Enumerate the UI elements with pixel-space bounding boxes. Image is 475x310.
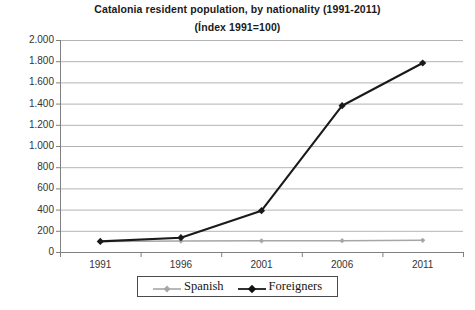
series-line-foreigners (100, 63, 422, 241)
y-axis-label: 1.200 (8, 120, 54, 130)
x-axis-label: 1991 (70, 260, 130, 270)
y-axis-label: 800 (8, 162, 54, 172)
y-axis-label: 600 (8, 183, 54, 193)
y-axis-label: 1.000 (8, 141, 54, 151)
data-point-foreigners (97, 238, 104, 245)
x-axis-label: 2006 (312, 260, 372, 270)
legend-label-spanish: Spanish (184, 280, 224, 293)
data-point-spanish (420, 238, 425, 243)
legend-marker-foreigners-icon (238, 281, 266, 293)
legend-item-spanish: Spanish (153, 280, 224, 293)
y-axis-label: 200 (8, 226, 54, 236)
legend-label-foreigners: Foreigners (269, 280, 322, 293)
x-axis-label: 1996 (151, 260, 211, 270)
y-axis-label: 0 (8, 247, 54, 257)
y-axis-label: 1.800 (8, 56, 54, 66)
y-axis-label: 1.600 (8, 77, 54, 87)
data-point-foreigners (177, 234, 184, 241)
x-axis-label: 2011 (393, 260, 453, 270)
y-axis-label: 400 (8, 205, 54, 215)
y-axis-label: 2.000 (8, 35, 54, 45)
chart-container: Catalonia resident population, by nation… (0, 0, 475, 310)
data-point-spanish (259, 238, 264, 243)
y-axis-label: 1.400 (8, 99, 54, 109)
data-point-spanish (340, 238, 345, 243)
chart-legend: Spanish Foreigners (137, 276, 338, 297)
legend-marker-spanish-icon (153, 281, 181, 293)
legend-item-foreigners: Foreigners (238, 280, 322, 293)
x-axis-label: 2001 (232, 260, 292, 270)
